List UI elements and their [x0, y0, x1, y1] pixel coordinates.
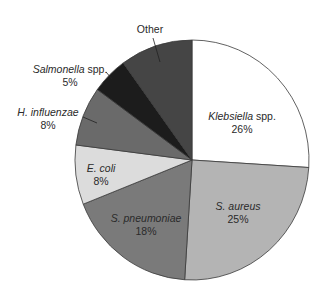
pie-slice-klebsiella-spp — [192, 40, 309, 168]
label-klebsiella: Klebsiella spp.26% — [208, 110, 276, 136]
label-s-pneumoniae: S. pneumoniae18% — [111, 212, 182, 238]
label-s-aureus: S. aureus25% — [216, 200, 261, 226]
pie-chart — [0, 0, 325, 294]
label-salmonella: Salmonella spp.5% — [33, 63, 108, 89]
label-e-coli: E. coli8% — [87, 162, 116, 188]
label-other: Other — [137, 23, 163, 36]
label-h-influenzae: H. influenzae8% — [17, 106, 78, 132]
